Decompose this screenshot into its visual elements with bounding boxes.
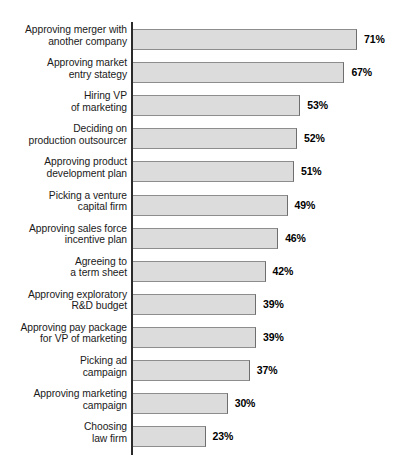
bar-row: Approving market entry stategy67%: [0, 62, 404, 85]
bar: [133, 261, 266, 282]
bar-row: Approving exploratory R&D budget39%: [0, 294, 404, 317]
bar-value-label: 39%: [263, 298, 284, 310]
bar: [133, 426, 206, 447]
bar: [133, 128, 297, 149]
bar: [133, 327, 256, 348]
bar: [133, 62, 344, 83]
bar-row: Approving product development plan51%: [0, 161, 404, 184]
bar: [133, 228, 278, 249]
category-label: Agreeing to a term sheet: [0, 256, 127, 279]
category-label: Approving marketing campaign: [0, 388, 127, 411]
category-label: Approving product development plan: [0, 156, 127, 179]
bar: [133, 95, 300, 116]
category-label: Hiring VP of marketing: [0, 90, 127, 113]
bar-value-label: 51%: [301, 165, 322, 177]
category-label: Approving exploratory R&D budget: [0, 289, 127, 312]
bar-chart: Approving merger with another company71%…: [0, 0, 404, 475]
category-label: Picking ad campaign: [0, 355, 127, 378]
bar: [133, 360, 250, 381]
bar-value-label: 67%: [351, 66, 372, 78]
bar: [133, 29, 357, 50]
bar-value-label: 49%: [295, 199, 316, 211]
bar: [133, 294, 256, 315]
bar-value-label: 52%: [304, 132, 325, 144]
bar-value-label: 46%: [285, 232, 306, 244]
category-label: Approving sales force incentive plan: [0, 223, 127, 246]
bar: [133, 393, 228, 414]
bar-row: Hiring VP of marketing53%: [0, 95, 404, 118]
bar-value-label: 39%: [263, 331, 284, 343]
bar-value-label: 71%: [364, 33, 385, 45]
bar: [133, 195, 288, 216]
bar-row: Choosing law firm23%: [0, 426, 404, 449]
bar-row: Picking a venture capital firm49%: [0, 195, 404, 218]
bar-value-label: 53%: [307, 99, 328, 111]
bar-value-label: 30%: [235, 397, 256, 409]
category-label: Approving market entry stategy: [0, 57, 127, 80]
bar-rows-container: Approving merger with another company71%…: [0, 0, 404, 475]
bar-value-label: 23%: [213, 430, 234, 442]
category-label: Deciding on production outsourcer: [0, 123, 127, 146]
bar-row: Approving marketing campaign30%: [0, 393, 404, 416]
bar: [133, 161, 294, 182]
bar-value-label: 42%: [273, 265, 294, 277]
category-label: Approving merger with another company: [0, 24, 127, 47]
bar-value-label: 37%: [257, 364, 278, 376]
bar-row: Approving pay package for VP of marketin…: [0, 327, 404, 350]
bar-row: Approving merger with another company71%: [0, 29, 404, 52]
category-label: Picking a venture capital firm: [0, 190, 127, 213]
bar-row: Agreeing to a term sheet42%: [0, 261, 404, 284]
category-label: Choosing law firm: [0, 421, 127, 444]
bar-row: Picking ad campaign37%: [0, 360, 404, 383]
category-label: Approving pay package for VP of marketin…: [0, 322, 127, 345]
bar-row: Deciding on production outsourcer52%: [0, 128, 404, 151]
bar-row: Approving sales force incentive plan46%: [0, 228, 404, 251]
